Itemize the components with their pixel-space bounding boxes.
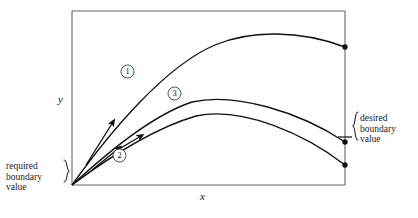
curve-3	[72, 99, 348, 185]
curve-3-path	[72, 99, 345, 185]
curve-label-2: 2	[113, 149, 126, 162]
curve-label-3: 3	[168, 87, 181, 100]
diagram-canvas	[0, 0, 418, 218]
required-boundary-line-3: value	[6, 182, 42, 193]
required-boundary-value-label: required boundary value	[6, 161, 42, 193]
desired-boundary-line-1: desired	[360, 113, 396, 124]
curve-1-path	[72, 34, 345, 185]
figure-container: 1 3 2 y x required boundary value desire…	[0, 0, 418, 218]
x-axis-label: x	[200, 190, 205, 202]
desired-boundary-line-2: boundary	[360, 124, 396, 135]
desired-boundary-line-3: value	[360, 134, 396, 145]
required-boundary-line-2: boundary	[6, 172, 42, 183]
desired-boundary-brace	[353, 112, 359, 140]
curve-1	[72, 34, 348, 185]
y-axis-label: y	[58, 93, 63, 105]
required-boundary-line-1: required	[6, 161, 42, 172]
curve-3-endpoint-dot	[342, 139, 347, 144]
curve-2-endpoint-dot	[342, 162, 347, 167]
required-boundary-brace	[64, 160, 70, 182]
curve-label-1: 1	[121, 65, 134, 78]
desired-boundary-value-label: desired boundary value	[360, 113, 396, 145]
curve-1-endpoint-dot	[342, 44, 347, 49]
